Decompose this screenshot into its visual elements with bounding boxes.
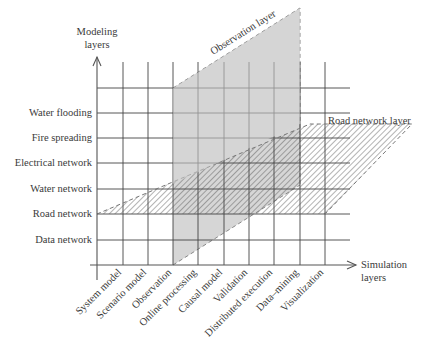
modeling-layer-label: Electrical network — [15, 157, 93, 168]
modeling-layer-label: Water network — [30, 183, 93, 194]
y-axis-title-line2: layers — [84, 39, 109, 50]
modeling-layer-label: Water flooding — [29, 107, 93, 118]
x-axis-title-line1: Simulation — [361, 259, 408, 270]
road-network-layer-label: Road network layer — [328, 115, 411, 126]
modeling-layer-label: Fire spreading — [32, 132, 93, 143]
x-axis-title-line2: layers — [361, 272, 386, 283]
modeling-layer-label: Road network — [33, 208, 93, 219]
y-axis-title-line1: Modeling — [77, 26, 119, 37]
layer-diagram: Modeling layers Simulation layers Water … — [0, 0, 427, 350]
modeling-layer-label: Data network — [35, 234, 93, 245]
